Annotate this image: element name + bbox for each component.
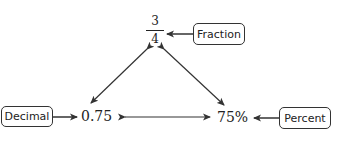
fraction-value: 3 4: [146, 15, 164, 46]
fraction-label-box: Fraction: [193, 23, 245, 45]
decimal-value: 0.75: [81, 108, 112, 124]
arrow-fraction-percent: [164, 49, 224, 105]
fraction-numerator: 3: [146, 15, 164, 28]
percent-label-box: Percent: [279, 107, 331, 129]
fraction-bar: [146, 30, 164, 31]
conversion-diagram: 3 4 Fraction Decimal 0.75 75% Percent: [0, 0, 348, 146]
arrow-fraction-decimal: [91, 49, 147, 103]
percent-value: 75%: [217, 109, 248, 125]
fraction-denominator: 4: [146, 33, 164, 46]
decimal-label-box: Decimal: [1, 106, 53, 127]
